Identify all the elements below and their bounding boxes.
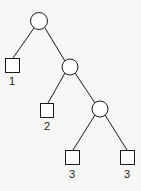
- root-node-circle: [31, 13, 48, 30]
- node-circle-2: [62, 59, 78, 75]
- leaf-label-3a: 3: [69, 168, 75, 180]
- leaf-square-3a: [66, 151, 80, 165]
- leaf-square-3b: [121, 151, 135, 165]
- edge-c1-c2: [45, 28, 65, 61]
- leaf-label-3b: 3: [124, 168, 130, 180]
- node-circle-3: [92, 101, 108, 117]
- edge-c3-s3b: [105, 115, 127, 150]
- edge-c2-s2: [48, 73, 65, 103]
- tree-diagram: 1 2 3 3: [0, 0, 141, 191]
- leaf-label-1: 1: [9, 75, 15, 87]
- leaf-square-1: [6, 59, 20, 73]
- edge-c2-c3: [75, 73, 95, 103]
- edge-c3-s3a: [73, 115, 95, 150]
- leaf-label-2: 2: [44, 120, 50, 132]
- edge-c1-s1: [13, 28, 34, 58]
- leaf-square-2: [41, 104, 54, 118]
